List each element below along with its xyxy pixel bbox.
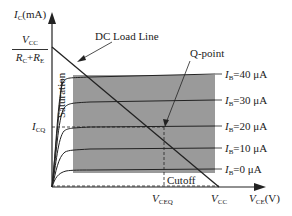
load-line-pointer-arrow-icon [77,55,86,62]
x-axis-arrow-icon [254,183,266,191]
saturation-label: Saturation [55,73,67,118]
cutoff-label: Cutoff [167,175,196,186]
x-axis-label: VCE(V) [249,193,280,206]
curve-label-ib-40: IB=40 μA [225,69,267,82]
y-intercept-numerator: VCC [12,34,48,47]
y-intercept-label: VCC RC+RE [12,34,48,65]
icq-label: ICQ [32,121,45,134]
vceq-label: VCEQ [152,193,173,206]
curve-label-ib-10: IB=10 μA [225,143,267,156]
y-axis-label: IC(mA) [14,9,46,22]
curve-label-ib-30: IB=30 μA [225,95,267,108]
y-intercept-denominator: RC+RE [12,52,48,65]
q-point-label: Q-point [190,48,224,59]
y-axis-arrow-icon [48,12,56,24]
load-line-label: DC Load Line [95,31,159,42]
curve-label-ib-0: IB=0 μA [225,164,262,177]
curve-label-ib-20: IB=20 μA [225,121,267,134]
x-intercept-label: VCC [211,193,227,206]
